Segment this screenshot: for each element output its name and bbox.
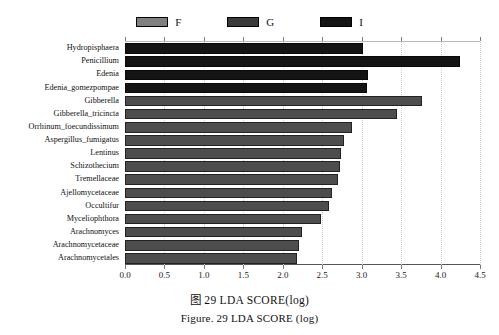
- bar-row[interactable]: [125, 240, 480, 251]
- x-tick-label-2.5: 2.5: [317, 270, 328, 280]
- legend-item-g[interactable]: G: [227, 17, 274, 28]
- bar-occultifur[interactable]: [125, 201, 329, 212]
- bar-arachnomycetaceae[interactable]: [125, 240, 299, 251]
- tick-bottom-1.5: [243, 265, 244, 269]
- bar-row[interactable]: [125, 161, 480, 172]
- gridline-4.5: [480, 42, 481, 265]
- tick-top-2.0: [283, 37, 284, 41]
- tick-bottom-0.5: [164, 265, 165, 269]
- bar-myceliophthora[interactable]: [125, 214, 321, 225]
- y-label-orrhinum_foecundissimum: Orrhinum_foecundissimum: [28, 123, 119, 131]
- tick-top-1.5: [243, 37, 244, 41]
- y-label-occultifur: Occultifur: [85, 202, 119, 210]
- tick-bottom-0.0: [125, 265, 126, 269]
- bar-row[interactable]: [125, 43, 480, 54]
- tick-top-3.5: [401, 37, 402, 41]
- x-tick-label-4.0: 4.0: [435, 270, 446, 280]
- bar-rows: [125, 42, 480, 265]
- figure-lda-score: FGI 0.00.51.01.52.02.53.03.54.04.5 Hydro…: [0, 0, 499, 335]
- bar-aspergillus_fumigatus[interactable]: [125, 135, 344, 146]
- tick-top-0.5: [164, 37, 165, 41]
- y-label-myceliophthora: Myceliophthora: [67, 215, 119, 223]
- bar-penicillium[interactable]: [125, 56, 460, 67]
- x-tick-label-0.0: 0.0: [119, 270, 130, 280]
- legend-label-i: I: [359, 17, 363, 28]
- bar-row[interactable]: [125, 56, 480, 67]
- bar-row[interactable]: [125, 83, 480, 94]
- bar-row[interactable]: [125, 253, 480, 264]
- tick-top-2.5: [322, 37, 323, 41]
- bar-lentinus[interactable]: [125, 148, 341, 159]
- x-tick-label-1.0: 1.0: [198, 270, 209, 280]
- bar-schizothecium[interactable]: [125, 161, 340, 172]
- bar-row[interactable]: [125, 201, 480, 212]
- bar-row[interactable]: [125, 122, 480, 133]
- y-label-arachnomyces: Arachnomyces: [70, 228, 119, 236]
- tick-top-1.0: [204, 37, 205, 41]
- tick-bottom-1.0: [204, 265, 205, 269]
- tick-bottom-2.0: [283, 265, 284, 269]
- y-axis-labels: HydropisphaeraPenicilliumEdeniaEdenia_go…: [0, 42, 122, 265]
- y-label-edenia_gomezpompae: Edenia_gomezpompae: [44, 84, 119, 92]
- y-label-edenia: Edenia: [96, 70, 119, 78]
- x-tick-label-3.5: 3.5: [395, 270, 406, 280]
- legend-label-g: G: [266, 17, 274, 28]
- bar-row[interactable]: [125, 188, 480, 199]
- y-label-schizothecium: Schizothecium: [70, 162, 119, 170]
- y-label-gibberella_tricincta: Gibberella_tricincta: [54, 110, 119, 118]
- tick-bottom-3.0: [362, 265, 363, 269]
- bar-row[interactable]: [125, 148, 480, 159]
- y-label-aspergillus_fumigatus: Aspergillus_fumigatus: [45, 136, 119, 144]
- tick-top-4.0: [441, 37, 442, 41]
- legend-label-f: F: [175, 17, 181, 28]
- bar-arachnomycetales[interactable]: [125, 253, 297, 264]
- bar-row[interactable]: [125, 109, 480, 120]
- chart-legend: FGI: [0, 14, 499, 30]
- tick-top-0.0: [125, 37, 126, 41]
- y-label-ajellomycetaceae: Ajellomycetaceae: [60, 189, 119, 197]
- bar-hydropisphaera[interactable]: [125, 43, 363, 54]
- y-label-lentinus: Lentinus: [90, 149, 119, 157]
- legend-item-f[interactable]: F: [136, 17, 181, 28]
- tick-top-4.5: [480, 37, 481, 41]
- x-tick-label-4.5: 4.5: [474, 270, 485, 280]
- bar-orrhinum_foecundissimum[interactable]: [125, 122, 352, 133]
- bar-row[interactable]: [125, 174, 480, 185]
- bar-edenia[interactable]: [125, 70, 368, 81]
- caption-chinese: 图 29 LDA SCORE(log): [0, 291, 499, 307]
- tick-bottom-4.0: [441, 265, 442, 269]
- tick-top-3.0: [362, 37, 363, 41]
- legend-swatch-g: [227, 17, 259, 27]
- bar-tremellaceae[interactable]: [125, 174, 338, 185]
- bar-ajellomycetaceae[interactable]: [125, 188, 332, 199]
- y-label-hydropisphaera: Hydropisphaera: [67, 44, 119, 52]
- x-tick-label-1.5: 1.5: [238, 270, 249, 280]
- x-tick-label-3.0: 3.0: [356, 270, 367, 280]
- legend-swatch-f: [136, 17, 168, 27]
- legend-swatch-i: [320, 17, 352, 27]
- bar-row[interactable]: [125, 227, 480, 238]
- x-tick-label-0.5: 0.5: [159, 270, 170, 280]
- tick-bottom-2.5: [322, 265, 323, 269]
- y-label-arachnomycetales: Arachnomycetales: [58, 254, 119, 262]
- caption-english: Figure. 29 LDA SCORE (log): [0, 312, 499, 324]
- bar-row[interactable]: [125, 135, 480, 146]
- bar-row[interactable]: [125, 96, 480, 107]
- y-label-gibberella: Gibberella: [84, 97, 119, 105]
- bar-row[interactable]: [125, 70, 480, 81]
- legend-item-i[interactable]: I: [320, 17, 363, 28]
- bar-gibberella[interactable]: [125, 96, 422, 107]
- x-tick-label-2.0: 2.0: [277, 270, 288, 280]
- bar-gibberella_tricincta[interactable]: [125, 109, 397, 120]
- bar-edenia_gomezpompae[interactable]: [125, 83, 367, 94]
- y-label-penicillium: Penicillium: [81, 57, 119, 65]
- tick-bottom-3.5: [401, 265, 402, 269]
- tick-bottom-4.5: [480, 265, 481, 269]
- bar-arachnomyces[interactable]: [125, 227, 302, 238]
- y-label-arachnomycetaceae: Arachnomycetaceae: [53, 241, 119, 249]
- bar-row[interactable]: [125, 214, 480, 225]
- y-label-tremellaceae: Tremellaceae: [75, 175, 119, 183]
